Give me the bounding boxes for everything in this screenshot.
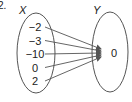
- mapping-diagram: 2. X Y −2−3−1002 0: [0, 0, 132, 102]
- domain-element: 0: [32, 62, 38, 74]
- domain-element: −10: [26, 48, 45, 60]
- domain-element: −2: [29, 21, 42, 33]
- mapping-arrow: [45, 53, 101, 54]
- domain-set-label: X: [18, 4, 27, 16]
- codomain-set-label: Y: [93, 4, 101, 16]
- codomain-element: 0: [111, 47, 117, 59]
- domain-element: 2: [32, 75, 38, 87]
- domain-element: −3: [29, 35, 42, 47]
- problem-number: 2.: [0, 0, 6, 11]
